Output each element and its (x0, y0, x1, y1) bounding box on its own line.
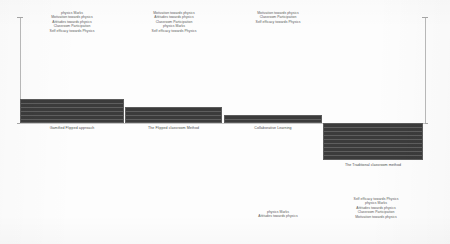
bar-collaborative-learning[interactable] (224, 115, 322, 123)
annotation-line: Self efficacy towards Physics (22, 29, 122, 33)
bar-label-traditional-classroom-method: The Traditional classroom method (323, 163, 423, 168)
bar-traditional-classroom-method[interactable] (323, 123, 423, 160)
annotation-block-gamified-flipped-approach: physics Marks Motivation towards physics… (22, 11, 122, 33)
annotation-line: Motivation towards physics (326, 215, 426, 219)
bar-gamified-flipped-approach[interactable] (20, 99, 124, 123)
bar-label-flipped-classroom-method: The Flipped classroom Method (125, 126, 222, 131)
annotation-line: Self efficacy towards Physics (124, 29, 224, 33)
bar-label-gamified-flipped-approach: Gamified Flipped approach (20, 126, 124, 131)
annotation-block-collaborative-learning-below: physics Marks Attitudes towards physics (228, 210, 328, 219)
bar-flipped-classroom-method[interactable] (125, 107, 222, 123)
annotation-block-traditional-classroom-method: Self efficacy towards Physics physics Ma… (326, 197, 426, 219)
chart-figure: Gamified Flipped approach The Flipped cl… (0, 0, 450, 244)
right-axis-line (425, 17, 426, 124)
annotation-line: Self efficacy towards Physics (228, 20, 328, 24)
annotation-block-flipped-classroom-method: Motivation towards physics Attitudes tow… (124, 11, 224, 33)
annotation-line: Attitudes towards physics (228, 214, 328, 218)
right-axis-top-tick (422, 17, 428, 18)
bar-label-collaborative-learning: Collaborative Learning (224, 126, 322, 131)
annotation-block-collaborative-learning-above: Motivation towards physics Classroom Par… (228, 11, 328, 24)
